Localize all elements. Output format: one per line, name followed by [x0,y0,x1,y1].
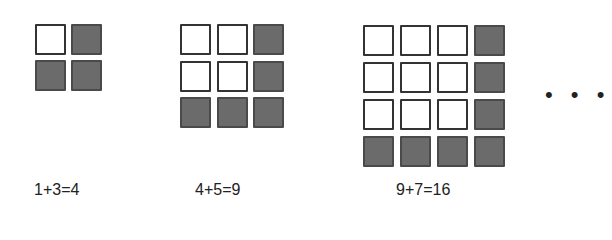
filled-square [437,136,468,167]
empty-square [35,24,66,55]
filled-square [474,99,505,130]
filled-square [474,136,505,167]
figure-3-label: 9+7=16 [396,181,450,199]
filled-square [474,25,505,56]
empty-square [217,61,248,92]
figure-1-label: 1+3=4 [34,181,79,199]
empty-square [437,62,468,93]
filled-square [474,62,505,93]
empty-square [363,62,394,93]
filled-square [217,97,248,128]
continuation-ellipsis: • • • [545,82,610,108]
filled-square [363,136,394,167]
filled-square [180,97,211,128]
empty-square [363,25,394,56]
empty-square [437,99,468,130]
empty-square [400,62,431,93]
empty-square [180,24,211,55]
filled-square [35,60,66,91]
empty-square [400,25,431,56]
filled-square [253,61,284,92]
filled-square [253,97,284,128]
empty-square [437,25,468,56]
filled-square [71,60,102,91]
figure-2-label: 4+5=9 [195,181,240,199]
empty-square [400,99,431,130]
empty-square [363,99,394,130]
filled-square [71,24,102,55]
empty-square [217,24,248,55]
filled-square [253,24,284,55]
filled-square [400,136,431,167]
empty-square [180,61,211,92]
